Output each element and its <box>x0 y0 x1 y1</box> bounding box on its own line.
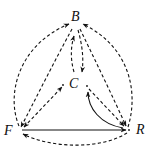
edge-r-to-f-bottom-arc <box>23 133 127 145</box>
edge-c-to-r <box>89 89 124 126</box>
node-point-r <box>128 129 130 131</box>
node-label-f: F <box>3 123 13 138</box>
node-point-c-left <box>62 84 64 86</box>
edge-c-to-b <box>71 36 74 72</box>
node-label-b: B <box>71 9 80 24</box>
edge-f-to-b-outer-arc <box>14 24 69 126</box>
edge-b-to-r-inner-line <box>80 29 126 126</box>
edge-b-to-f-inner-line <box>21 29 72 127</box>
node-point-c-right <box>86 85 88 87</box>
edge-f-c-bidirectional <box>24 87 62 127</box>
edge-r-to-b-outer-arc <box>83 24 132 127</box>
edge-r-to-c-solid <box>88 92 123 128</box>
directed-graph-diagram: B C F R <box>0 0 157 151</box>
edge-b-to-c <box>78 30 83 72</box>
node-label-r: R <box>135 122 145 137</box>
node-label-c: C <box>69 76 79 91</box>
